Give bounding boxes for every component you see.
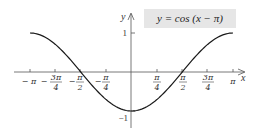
y-tick-label-neg1: −1 [118, 113, 128, 123]
y-axis-label: y [120, 11, 126, 22]
svg-text:3π: 3π [51, 73, 62, 82]
x-tick-label-neg-pi4: − π 4 [95, 73, 110, 92]
x-tick-label-neg-pi: − π [22, 77, 37, 86]
svg-text:4: 4 [52, 83, 58, 92]
x-tick-label-pi4: π 4 [153, 73, 161, 92]
x-tick-label-pi: π [229, 77, 236, 86]
y-tick-label-1: 1 [123, 28, 128, 38]
svg-text:2: 2 [179, 83, 185, 92]
svg-text:π: π [102, 73, 109, 82]
x-ticks [30, 69, 233, 72]
svg-text:4: 4 [204, 83, 210, 92]
x-tick-label-neg-3pi4: − 3π 4 [41, 73, 62, 92]
svg-text:4: 4 [153, 83, 159, 92]
svg-text:3π: 3π [203, 73, 214, 82]
svg-text:−: − [41, 77, 48, 86]
x-tick-label-neg-pi2: − π 2 [69, 73, 84, 92]
svg-text:2: 2 [76, 83, 82, 92]
cosine-chart: y = cos (x − π) x y 1 −1 − π − 3π 4 − π … [0, 0, 255, 133]
x-axis-label: x [240, 72, 246, 83]
x-tick-label-pi2: π 2 [179, 73, 187, 92]
svg-text:−: − [69, 77, 76, 86]
svg-text:4: 4 [102, 83, 108, 92]
svg-text:π: π [153, 73, 160, 82]
x-tick-label-3pi4: 3π 4 [202, 73, 214, 92]
chart-title: y = cos (x − π) [156, 12, 223, 25]
svg-text:−: − [95, 77, 102, 86]
